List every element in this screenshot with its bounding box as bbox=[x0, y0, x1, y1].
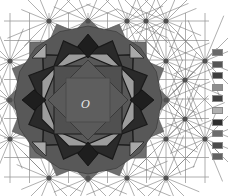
legend-swatch bbox=[212, 119, 223, 126]
legend-swatch bbox=[212, 72, 223, 79]
center-label-o: O bbox=[81, 98, 90, 111]
legend-swatch bbox=[212, 107, 223, 114]
legend-swatch bbox=[212, 153, 223, 160]
color-legend bbox=[212, 49, 224, 165]
legend-swatch bbox=[212, 49, 223, 56]
legend-swatch bbox=[212, 95, 223, 102]
legend-swatch bbox=[212, 130, 223, 137]
legend-swatch bbox=[212, 84, 223, 91]
tiling-diagram bbox=[0, 0, 228, 196]
legend-swatch bbox=[212, 142, 223, 149]
legend-swatch bbox=[212, 61, 223, 68]
